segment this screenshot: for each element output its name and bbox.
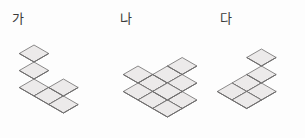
- cube-face-top: [49, 79, 78, 96]
- cube-face-left: [247, 92, 262, 101]
- cube-face-top: [247, 83, 276, 100]
- cube-face-left: [217, 92, 232, 101]
- cube-face-top: [167, 92, 196, 109]
- cube-face-top: [167, 75, 196, 92]
- cube-face-left: [49, 88, 64, 97]
- cube-face-top: [123, 66, 152, 83]
- cube-face-right: [153, 83, 168, 92]
- cube-face-left: [19, 88, 34, 97]
- cube-face-left: [138, 83, 153, 92]
- cube-face-top: [123, 83, 152, 100]
- cube-face-left: [19, 54, 34, 63]
- cube-face-right: [261, 92, 276, 101]
- cube-face-left: [153, 92, 168, 101]
- cube-face-top: [247, 49, 276, 66]
- cube-face-left: [247, 58, 262, 67]
- cube-face-left: [167, 66, 182, 75]
- cube-face-left: [153, 75, 168, 84]
- cube-face-left: [123, 75, 138, 84]
- cube-face-right: [167, 92, 182, 101]
- cube-face-right: [261, 58, 276, 67]
- cube-face-top: [232, 92, 261, 109]
- answer-blank: ( ): [0, 108, 305, 138]
- cube-face-right: [34, 54, 49, 63]
- cube-face-top: [167, 58, 196, 75]
- cube-face-top: [19, 45, 48, 62]
- cube-face-left: [123, 92, 138, 101]
- figure-label-na: 나: [120, 12, 132, 25]
- cube-face-right: [167, 92, 182, 101]
- cube-face-left: [232, 83, 247, 92]
- figure-label-da: 다: [220, 12, 232, 25]
- cube-face-left: [19, 71, 34, 80]
- cube-face-left: [247, 75, 262, 84]
- figure-label-ga: 가: [12, 12, 24, 25]
- cube-face-top: [34, 88, 63, 105]
- cube-face-right: [138, 75, 153, 84]
- cube-face-right: [34, 71, 49, 80]
- cube-face-right: [49, 96, 64, 105]
- cube-face-right: [138, 92, 153, 101]
- cube-face-left: [153, 92, 168, 101]
- worksheet-page: 가 나 다 ( ): [0, 0, 305, 138]
- cube-face-right: [182, 66, 197, 75]
- cube-face-right: [63, 88, 78, 97]
- cube-face-left: [167, 83, 182, 92]
- cube-face-top: [138, 75, 167, 92]
- cube-face-top: [232, 75, 261, 92]
- cube-face-top: [153, 66, 182, 83]
- cube-face-right: [167, 75, 182, 84]
- cube-face-top: [153, 83, 182, 100]
- cube-face-right: [247, 83, 262, 92]
- cube-face-top: [217, 83, 246, 100]
- cube-face-top: [138, 92, 167, 109]
- cube-face-top: [153, 83, 182, 100]
- cube-face-right: [261, 75, 276, 84]
- page-baseline: [0, 136, 305, 137]
- cube-face-right: [34, 88, 49, 97]
- cube-face-left: [34, 96, 49, 105]
- cube-face-right: [182, 83, 197, 92]
- cube-face-top: [19, 62, 48, 79]
- cube-face-right: [232, 92, 247, 101]
- cube-face-top: [247, 66, 276, 83]
- cube-face-top: [19, 79, 48, 96]
